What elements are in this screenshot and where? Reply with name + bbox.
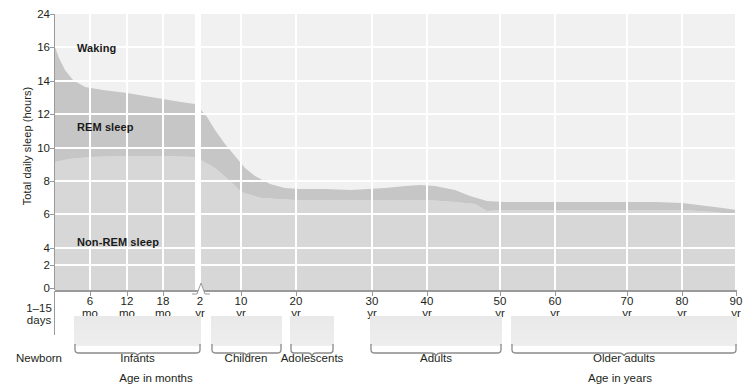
gridline-10yr: [240, 14, 242, 290]
x-label-30yr-value: 30: [352, 295, 392, 307]
plot-area: Waking REM sleep Non-REM sleep: [55, 14, 737, 290]
gridline-40yr: [426, 14, 428, 290]
age-group-label-infants: Infants: [74, 352, 201, 364]
gridline-14: [55, 80, 737, 82]
age-group-label-newborn: Newborn: [6, 352, 72, 364]
x-label-70yr-value: 70: [607, 295, 647, 307]
x-axis-line: [55, 290, 737, 292]
x-label-6mo-value: 6: [70, 295, 110, 307]
gridline-50yr: [499, 14, 501, 290]
y-tick-0: 0: [22, 283, 50, 293]
x-axis-caption-years: Age in years: [520, 372, 720, 384]
gridline-30yr: [371, 14, 373, 290]
x-label-18mo-value: 18: [143, 295, 183, 307]
gridline-2: [55, 264, 737, 266]
age-group-box-infants: [74, 316, 201, 346]
series-label-waking: Waking: [77, 42, 116, 54]
gridline-6mo: [89, 14, 91, 290]
age-group-box-adults: [370, 316, 502, 346]
newborn-age-range: 1–15 days: [14, 302, 64, 326]
x-label-10yr-value: 10: [221, 295, 261, 307]
gridline-6: [55, 213, 737, 215]
gridline-16: [55, 46, 737, 48]
age-group-box-children: [211, 316, 282, 346]
age-group-box-older-adults: [511, 316, 737, 346]
gridline-12: [55, 113, 737, 115]
x-label-12mo-value: 12: [107, 295, 147, 307]
age-group-label-adolescents: Adolescents: [274, 352, 350, 364]
gridline-20yr: [295, 14, 297, 290]
y-axis-tick-labels: 24 16 14 12 10 8 6 4 2 0: [18, 0, 50, 300]
gridline-10: [55, 147, 737, 149]
x-label-90yr-value: 90: [716, 295, 744, 307]
gridline-8: [55, 180, 737, 182]
x-label-2yr-value: 2: [180, 295, 220, 307]
y-tick-24: 24: [22, 9, 50, 19]
y-tick-2: 2: [22, 260, 50, 270]
x-axis-caption-months: Age in months: [56, 372, 256, 384]
newborn-range-value: 1–15: [14, 302, 64, 314]
non-rem-sleep-area: [55, 156, 737, 290]
gridline-12mo: [126, 14, 128, 290]
series-label-non-rem-sleep: Non-REM sleep: [77, 236, 159, 248]
y-tick-16: 16: [22, 42, 50, 52]
gridline-70yr: [626, 14, 628, 290]
y-tick-8: 8: [22, 176, 50, 186]
y-tick-10: 10: [22, 143, 50, 153]
age-group-label-older-adults: Older adults: [511, 352, 737, 364]
y-tick-14: 14: [22, 76, 50, 86]
newborn-range-unit: days: [14, 314, 64, 326]
x-label-80yr-value: 80: [662, 295, 702, 307]
y-tick-6: 6: [22, 209, 50, 219]
y-tick-12: 12: [22, 109, 50, 119]
x-axis-break-gap: [195, 14, 201, 290]
gridline-80yr: [681, 14, 683, 290]
gridline-90yr: [735, 14, 737, 290]
y-tick-4: 4: [22, 243, 50, 253]
sleep-chart-figure: Total daily sleep (hours) 24 16 14 12 10…: [0, 0, 744, 389]
age-group-box-adolescents: [290, 316, 334, 346]
x-axis-break-marker: [192, 282, 210, 296]
x-label-50yr-value: 50: [480, 295, 520, 307]
gridline-18mo: [162, 14, 164, 290]
x-label-40yr-value: 40: [407, 295, 447, 307]
gridline-60yr: [554, 14, 556, 290]
series-label-rem-sleep: REM sleep: [77, 121, 134, 133]
age-group-label-adults: Adults: [370, 352, 502, 364]
x-label-20yr-value: 20: [276, 295, 316, 307]
x-label-60yr-value: 60: [535, 295, 575, 307]
